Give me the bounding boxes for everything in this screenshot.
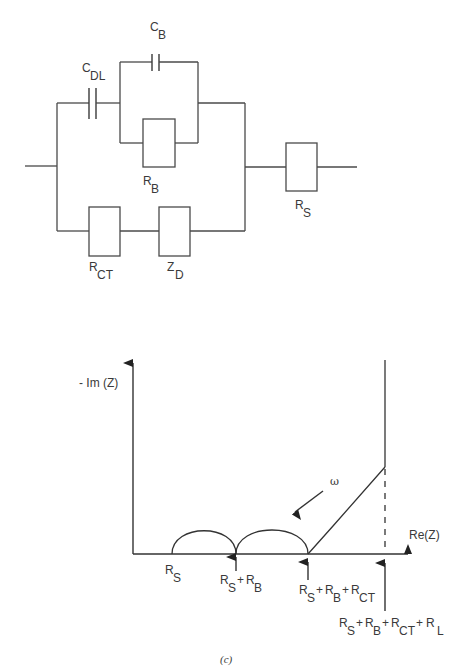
equivalent-circuit-and-nyquist-diagram: C DL C B R B R CT Z D R S - Im (Z) Re(Z) [0,0,459,672]
marker-label-rs: R S [165,560,181,585]
marker-label-rs-rb-rct: R S + R B + R CT [299,580,376,605]
figure-caption: (c) [220,653,233,666]
label-zd: Z D [167,257,184,282]
x-axis-label: Re(Z) [409,528,440,542]
label-rct: R CT [89,257,114,282]
warburg-line [308,467,385,554]
impedance-zd [159,207,190,256]
resistor-rct [89,207,120,256]
resistor-rb [143,119,175,167]
label-cdl: C DL [82,58,106,83]
label-rb: R B [143,171,159,196]
nyquist-plot: - Im (Z) Re(Z) ω R S R S + R B R [79,360,444,638]
marker-label-rs-rb: R S + R B [220,570,262,595]
charge-transfer-semicircle [236,530,308,554]
omega-arrow [295,491,323,512]
bulk-semicircle [172,531,236,554]
marker-label-rs-rb-rct-rl: R S + R B + R CT + R L [339,613,444,638]
resistor-rs [286,143,317,191]
y-axis-label: - Im (Z) [79,376,118,390]
omega-label: ω [330,475,339,488]
label-rs: R S [295,195,311,220]
label-cb: C B [150,17,166,42]
equivalent-circuit: C DL C B R B R CT Z D R S [25,17,357,282]
capacitor-cb [152,54,159,71]
capacitor-cdl [89,88,96,119]
